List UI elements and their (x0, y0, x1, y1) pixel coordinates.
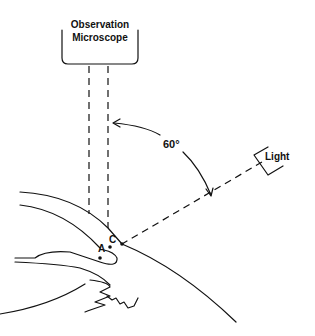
cornea (20, 192, 236, 322)
cornea-outer (20, 192, 122, 244)
point-c-dot (108, 245, 112, 249)
lens-outline (0, 284, 85, 314)
angle-indicator: 60° (113, 119, 213, 196)
light-entry-dot (120, 242, 124, 246)
angle-label: 60° (163, 138, 180, 150)
zonule-squiggle (107, 296, 138, 308)
observation-microscope: Observation Microscope (62, 19, 138, 64)
sclera-outline (122, 244, 236, 322)
angle-arc-upper (114, 123, 160, 135)
iris-lower (15, 262, 110, 285)
microscope-label-line1: Observation (71, 19, 129, 30)
eye-illumination-diagram: Observation Microscope Light 60° A (0, 0, 315, 336)
point-markers: A C (98, 234, 124, 260)
angle-arc-lower (183, 152, 211, 195)
microscope-label-line2: Microscope (72, 32, 128, 43)
point-a-dot (98, 256, 102, 260)
iris (0, 250, 138, 314)
light-beam (122, 162, 262, 244)
light-label: Light (265, 151, 290, 162)
point-a-label: A (98, 243, 105, 254)
point-c-label: C (109, 234, 116, 245)
ciliary-body (85, 280, 110, 312)
light-source: Light (254, 147, 290, 175)
